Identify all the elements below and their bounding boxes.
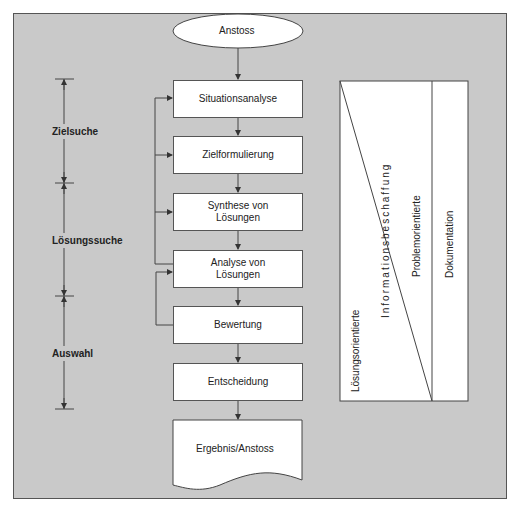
label-informationsbeschaffung: Informationsbeschaffung (380, 163, 391, 318)
label-problemorientierte: Problemorientierte (411, 195, 422, 277)
step-situationsanalyse: Situationsanalyse (173, 80, 303, 118)
label-loesungsorientierte: Lösungsorientierte (350, 310, 361, 392)
start-label: Anstoss (219, 25, 255, 36)
end-label: Ergebnis/Anstoss (196, 443, 274, 454)
step-analyse: Analyse von Lösungen (173, 250, 303, 288)
step-bewertung: Bewertung (173, 306, 303, 344)
phase-loesungssuche: Lösungssuche (52, 233, 123, 248)
label-dokumentation: Dokumentation (444, 211, 455, 278)
phase-auswahl: Auswahl (52, 346, 93, 361)
step-entscheidung: Entscheidung (173, 363, 303, 401)
step-synthese: Synthese von Lösungen (173, 193, 303, 231)
step-zielformulierung: Zielformulierung (173, 136, 303, 174)
end-document-shape (173, 420, 302, 489)
phase-zielsuche: Zielsuche (52, 124, 98, 139)
